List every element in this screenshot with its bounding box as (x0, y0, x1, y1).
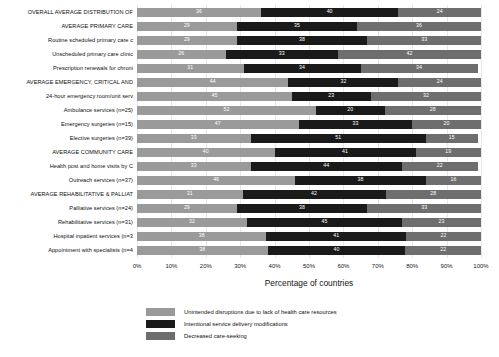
bar-segment: 16 (426, 176, 481, 185)
bar-segment: 34 (244, 64, 361, 73)
x-tick-label: 70% (372, 262, 384, 270)
x-axis-label: Percentage of countries (137, 278, 481, 289)
bar-row: AVERAGE COMMUNITY CARE404119 (0, 145, 499, 159)
x-axis-ticks: 0%10%20%30%40%50%60%70%80%90%100% (137, 262, 481, 276)
bar-segment: 51 (251, 134, 426, 143)
bar-segment: 22 (406, 232, 481, 241)
stacked-bar: 443224 (137, 78, 481, 87)
bar-segment: 38 (237, 36, 368, 45)
x-tick-label: 100% (473, 262, 488, 270)
bar-segment: 38 (137, 232, 266, 241)
bar-segment: 22 (405, 246, 481, 255)
bar-segment: 52 (137, 106, 316, 115)
segment-value: 33 (352, 121, 358, 126)
segment-value: 38 (358, 177, 364, 182)
bar-segment: 44 (137, 78, 288, 87)
stacked-bar: 293536 (137, 22, 481, 31)
stacked-bar: 522028 (137, 106, 481, 115)
bar-row: Emergency surgeries (n=15)473320 (0, 117, 499, 131)
bar-segment: 38 (137, 246, 268, 255)
segment-value: 33 (421, 205, 427, 210)
bar-segment: 42 (243, 190, 386, 199)
segment-value: 41 (333, 233, 339, 238)
segment-value: 24 (437, 9, 443, 14)
segment-value: 44 (323, 163, 329, 168)
segment-value: 35 (294, 23, 300, 28)
bar-segment: 47 (137, 120, 299, 129)
bar-segment: 40 (137, 148, 275, 157)
stacked-bar: 314228 (137, 190, 481, 199)
legend-swatch (146, 320, 175, 328)
segment-value: 32 (340, 79, 346, 84)
stacked-bar: 324523 (137, 218, 481, 227)
segment-value: 31 (187, 191, 193, 196)
segment-value: 29 (184, 23, 190, 28)
bar-row: Prescription renewals for chroni313434 (0, 61, 499, 75)
segment-value: 33 (279, 51, 285, 56)
category-label: 24-hour emergency room/unit serv (0, 93, 137, 100)
bar-segment: 29 (137, 36, 237, 45)
category-label: Appointment with specialists (n=4 (0, 247, 137, 254)
category-label: Rehabilitative services (n=31) (0, 219, 137, 226)
legend-label: Intentional service delivery modificatio… (184, 320, 288, 328)
segment-value: 33 (421, 37, 427, 42)
segment-value: 51 (335, 135, 341, 140)
stacked-bar: 404119 (137, 148, 481, 157)
category-label: OVERALL AVERAGE DISTRIBUTION OF (0, 9, 137, 16)
x-tick-label: 10% (165, 262, 177, 270)
category-label: Hospital inpatient services (n=3 (0, 233, 137, 240)
segment-value: 47 (215, 121, 221, 126)
bar-segment: 32 (288, 78, 398, 87)
bar-rows: OVERALL AVERAGE DISTRIBUTION OF364024AVE… (0, 5, 499, 257)
segment-value: 42 (406, 51, 412, 56)
bar-row: AVERAGE REHABILITATIVE & PALLIAT314228 (0, 187, 499, 201)
segment-value: 24 (437, 79, 443, 84)
category-label: Emergency surgeries (n=15) (0, 121, 137, 128)
category-label: AVERAGE COMMUNITY CARE (0, 149, 137, 156)
bar-segment: 33 (137, 162, 251, 171)
stacked-bar: 384022 (137, 246, 481, 255)
segment-value: 36 (196, 9, 202, 14)
bar-segment: 33 (367, 36, 481, 45)
category-label: AVERAGE EMERGENCY, CRITICAL AND (0, 79, 137, 86)
segment-value: 32 (189, 219, 195, 224)
segment-value: 28 (430, 191, 436, 196)
category-label: Unscheduled primary care clinic (0, 51, 137, 58)
stacked-bar: 364024 (137, 8, 481, 17)
stacked-bar: 384122 (137, 232, 481, 241)
bar-row: Outreach services (n=37)463816 (0, 173, 499, 187)
bar-segment: 26 (137, 50, 226, 59)
segment-value: 45 (321, 219, 327, 224)
segment-value: 22 (437, 163, 443, 168)
legend-item[interactable]: Decreased care-seeking (146, 330, 486, 341)
bar-segment: 38 (237, 204, 368, 213)
bar-segment: 31 (137, 190, 243, 199)
bar-segment: 20 (316, 106, 385, 115)
segment-value: 44 (210, 79, 216, 84)
bar-row: Rehabilitative services (n=31)324523 (0, 215, 499, 229)
x-tick-label: 30% (234, 262, 246, 270)
bar-segment: 32 (137, 218, 247, 227)
bar-segment: 33 (137, 134, 251, 143)
segment-value: 23 (438, 219, 444, 224)
bar-segment: 45 (247, 218, 402, 227)
legend-item[interactable]: Intentional service delivery modificatio… (146, 318, 486, 329)
bar-segment: 29 (137, 204, 237, 213)
segment-value: 19 (445, 149, 451, 154)
category-label: Elective surgeries (n=39) (0, 135, 137, 142)
bar-segment: 29 (137, 22, 237, 31)
segment-value: 42 (311, 191, 317, 196)
legend-item[interactable]: Unintended disruptions due to lack of he… (146, 306, 486, 317)
x-tick-label: 90% (441, 262, 453, 270)
plot-area: OVERALL AVERAGE DISTRIBUTION OF364024AVE… (0, 5, 499, 258)
bar-row: OVERALL AVERAGE DISTRIBUTION OF364024 (0, 5, 499, 19)
segment-value: 32 (423, 93, 429, 98)
segment-value: 26 (178, 51, 184, 56)
bar-segment: 33 (367, 204, 481, 213)
x-tick-label: 60% (337, 262, 349, 270)
bar-row: Unscheduled primary care clinic263342 (0, 47, 499, 61)
category-label: Ambulance services (n=25) (0, 107, 137, 114)
segment-value: 16 (450, 177, 456, 182)
bar-segment: 23 (402, 218, 481, 227)
bar-segment: 33 (299, 120, 413, 129)
